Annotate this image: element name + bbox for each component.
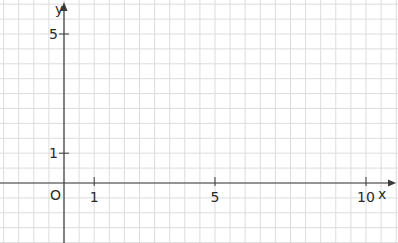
- y-tick-label: 1: [49, 145, 58, 161]
- axis-ticks: 151015: [49, 26, 375, 205]
- y-axis-label: y: [55, 1, 63, 17]
- x-axis-arrow-icon: [388, 180, 396, 187]
- plot-area: 151015 x y O: [0, 0, 398, 243]
- coordinate-grid: 151015 x y O: [0, 0, 398, 243]
- x-axis-label: x: [378, 186, 386, 202]
- origin-label: O: [50, 187, 61, 203]
- y-tick-label: 5: [49, 26, 58, 42]
- axes: [0, 2, 396, 243]
- x-tick-label: 10: [357, 189, 375, 205]
- grid-lines: [0, 0, 398, 243]
- x-tick-label: 5: [211, 189, 220, 205]
- x-tick-label: 1: [90, 189, 99, 205]
